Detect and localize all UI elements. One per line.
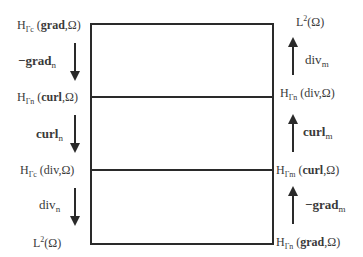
space-subscript: Γc xyxy=(26,25,34,34)
space-arg: div,Ω xyxy=(44,163,70,177)
operator-subscript: m xyxy=(338,204,345,214)
space-arg: div,Ω xyxy=(304,86,330,100)
space-prefix: H xyxy=(276,235,285,249)
operator-label: curl xyxy=(303,124,325,139)
space-arg: ,Ω xyxy=(65,18,77,32)
space-arg-bold: curl xyxy=(41,90,62,104)
arrow-up-icon xyxy=(286,37,300,75)
operator-label: div xyxy=(305,52,322,67)
space-arg-bold: grad xyxy=(41,18,65,32)
operator-subscript: n xyxy=(51,60,56,70)
space-prefix: H xyxy=(276,163,285,177)
left-space-3: L2(Ω) xyxy=(33,235,61,251)
right-space-3: HΓn (grad,Ω) xyxy=(276,235,340,251)
space-subscript: Γc xyxy=(29,170,37,179)
arrow-up-icon xyxy=(286,114,300,152)
right-space-0: L2(Ω) xyxy=(296,14,324,30)
space-subscript: Γn xyxy=(289,93,298,102)
space-arg: Ω xyxy=(311,15,320,29)
arrow-down-icon xyxy=(68,43,82,81)
right-operator-2: −gradm xyxy=(305,197,345,214)
arrow-down-icon xyxy=(68,188,82,226)
left-operator-1: curln xyxy=(36,126,63,143)
operator-label: −grad xyxy=(305,197,338,212)
operator-subscript: m xyxy=(322,59,329,69)
space-prefix: H xyxy=(280,86,289,100)
space-superscript: 2 xyxy=(40,235,44,244)
left-space-2: HΓc (div,Ω) xyxy=(20,163,74,179)
space-arg: Ω xyxy=(48,236,57,250)
right-operator-0: divm xyxy=(305,52,329,69)
space-arg: ,Ω xyxy=(62,90,74,104)
space-subscript: Γn xyxy=(285,242,294,251)
operator-subscript: n xyxy=(56,204,61,214)
space-prefix: H xyxy=(17,18,26,32)
divider-line-2 xyxy=(90,169,272,171)
space-prefix: H xyxy=(17,90,26,104)
operator-label: −grad xyxy=(18,53,51,68)
space-subscript: Γn xyxy=(26,97,35,106)
space-arg-bold: curl xyxy=(303,163,324,177)
arrow-down-icon xyxy=(68,115,82,153)
space-arg: ,Ω xyxy=(323,163,335,177)
left-space-1: HΓn (curl,Ω) xyxy=(17,90,78,106)
space-subscript: Γm xyxy=(285,170,296,179)
operator-label: curl xyxy=(36,126,58,141)
diagram-box xyxy=(90,23,274,245)
space-superscript: 2 xyxy=(303,14,307,23)
space-arg: ,Ω xyxy=(324,235,336,249)
right-space-1: HΓn (div,Ω) xyxy=(280,86,335,102)
arrow-up-icon xyxy=(286,186,300,224)
left-operator-2: divn xyxy=(39,197,60,214)
operator-subscript: n xyxy=(58,133,63,143)
left-operator-0: −gradn xyxy=(18,53,56,70)
operator-label: div xyxy=(39,197,56,212)
space-arg-bold: grad xyxy=(300,235,324,249)
divider-line-1 xyxy=(90,96,272,98)
right-operator-1: curlm xyxy=(303,124,332,141)
operator-subscript: m xyxy=(325,131,332,141)
right-space-2: HΓm (curl,Ω) xyxy=(276,163,339,179)
space-prefix: H xyxy=(20,163,29,177)
left-space-0: HΓc (grad,Ω) xyxy=(17,18,81,34)
